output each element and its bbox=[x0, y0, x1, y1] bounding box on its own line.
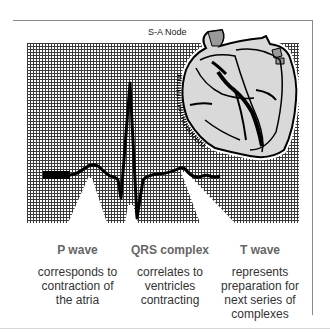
t-wave-desc-line: complexes bbox=[210, 307, 310, 321]
p-wave-baseline bbox=[43, 171, 70, 179]
t-wave-callout-wedge bbox=[181, 172, 235, 223]
t-wave-desc-line: next series of bbox=[210, 293, 310, 307]
qrs-desc-line: contracting bbox=[120, 293, 220, 307]
heart-icon bbox=[179, 30, 297, 157]
p-wave-desc-line: contraction of bbox=[30, 279, 125, 293]
qrs-desc-line: ventricles bbox=[120, 279, 220, 293]
t-wave-description: represents preparation for next series o… bbox=[210, 265, 310, 321]
sa-node-label: S-A Node bbox=[148, 27, 187, 37]
t-wave-desc-line: preparation for bbox=[210, 279, 310, 293]
p-wave-callout-wedge bbox=[68, 178, 107, 223]
p-wave-description: corresponds to contraction of the atria bbox=[30, 265, 125, 307]
qrs-complex-title: QRS complex bbox=[120, 243, 220, 257]
t-wave-desc-line: represents bbox=[210, 265, 310, 279]
p-wave-desc-line: the atria bbox=[30, 293, 125, 307]
qrs-desc-line: correlates to bbox=[120, 265, 220, 279]
qrs-complex-description: correlates to ventricles contracting bbox=[120, 265, 220, 307]
t-wave-title: T wave bbox=[210, 243, 310, 257]
p-wave-desc-line: corresponds to bbox=[30, 265, 125, 279]
p-wave-title: P wave bbox=[30, 243, 125, 257]
